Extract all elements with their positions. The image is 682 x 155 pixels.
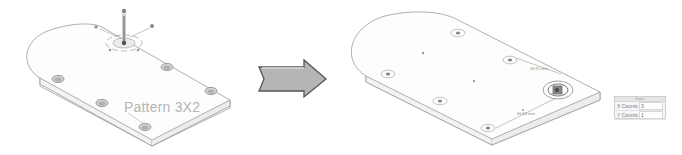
hole-icon xyxy=(139,123,151,130)
cad-illustration xyxy=(0,0,682,155)
rotate-manipulator-icon[interactable] xyxy=(543,81,573,99)
hole-icon xyxy=(205,87,217,94)
dimension-label-lower: 66.63 mm xyxy=(517,111,535,116)
hole-icon xyxy=(161,63,173,70)
pattern-annotation: Pattern 3X2 xyxy=(124,99,200,115)
y-counts-row: Y Counts: 1 xyxy=(615,111,665,120)
y-counts-input[interactable]: 1 xyxy=(639,111,663,119)
pattern-dialog: Pattern X Counts: 3 Y Counts: 1 xyxy=(614,96,666,119)
hole-icon xyxy=(96,99,108,106)
right-plate xyxy=(351,12,600,145)
hole-icon xyxy=(52,75,64,82)
x-counts-label: X Counts: xyxy=(617,103,639,109)
point-marker xyxy=(473,80,475,82)
transition-arrow-icon xyxy=(259,60,326,97)
x-counts-input[interactable]: 3 xyxy=(639,102,663,110)
x-counts-row: X Counts: 3 xyxy=(615,102,665,111)
y-counts-label: Y Counts: xyxy=(617,112,639,118)
point-marker xyxy=(422,52,424,54)
dimension-label-upper: 46.91 mm xyxy=(530,66,548,71)
